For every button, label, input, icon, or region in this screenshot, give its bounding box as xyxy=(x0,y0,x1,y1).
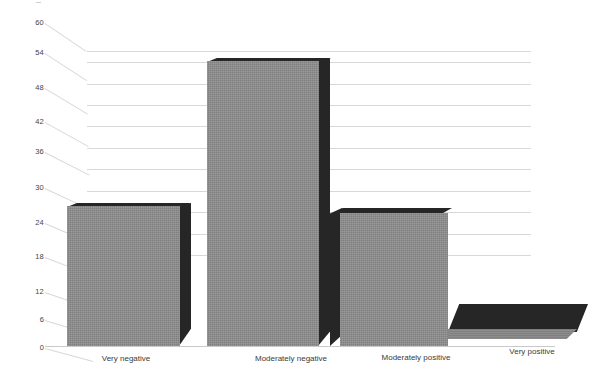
y-tick-60: 60 xyxy=(18,19,44,27)
y-tick-0: 0 xyxy=(18,344,44,352)
bar-very-positive[interactable] xyxy=(448,298,598,348)
bar-front-face xyxy=(448,329,577,339)
gridline-slant-0 xyxy=(45,348,94,362)
y-tick-42: 42 xyxy=(18,118,44,126)
gridline-slant-42 xyxy=(45,122,89,147)
x-tick-very-negative: Very negative xyxy=(102,354,150,363)
y-axis: 60 54 48 42 36 30 24 18 12 6 0 xyxy=(0,0,44,384)
y-tick-6: 6 xyxy=(18,316,44,324)
x-tick-moderately-negative: Moderately negative xyxy=(255,354,327,363)
gridline-slant-60 xyxy=(44,23,86,52)
y-tick-18: 18 xyxy=(18,253,44,261)
y-tick-12: 12 xyxy=(18,288,44,296)
bar-front-face xyxy=(340,213,448,346)
y-tick-48: 48 xyxy=(18,84,44,92)
y-tick-30: 30 xyxy=(18,184,44,192)
x-tick-very-positive: Very positive xyxy=(509,347,554,356)
x-tick-moderately-positive: Moderately positive xyxy=(382,353,451,362)
y-tick-36: 36 xyxy=(18,148,44,156)
gridline-slant-48 xyxy=(44,88,87,115)
bar-moderately-negative[interactable] xyxy=(196,52,336,348)
bar-top-face xyxy=(448,304,588,332)
bar-front-face xyxy=(207,61,319,346)
bar-side-face xyxy=(318,58,330,346)
bar-chart: 60 54 48 42 36 30 24 18 12 6 0 Very nega… xyxy=(0,0,601,384)
bar-front-face xyxy=(67,206,180,346)
y-tick-24: 24 xyxy=(18,219,44,227)
y-tick-54: 54 xyxy=(18,49,44,57)
gridline-slant-36 xyxy=(45,152,90,176)
bar-moderately-positive[interactable] xyxy=(330,202,465,348)
gridline-slant-54 xyxy=(44,53,86,81)
bar-very-negative[interactable] xyxy=(56,196,196,348)
bar-side-face xyxy=(179,203,191,346)
